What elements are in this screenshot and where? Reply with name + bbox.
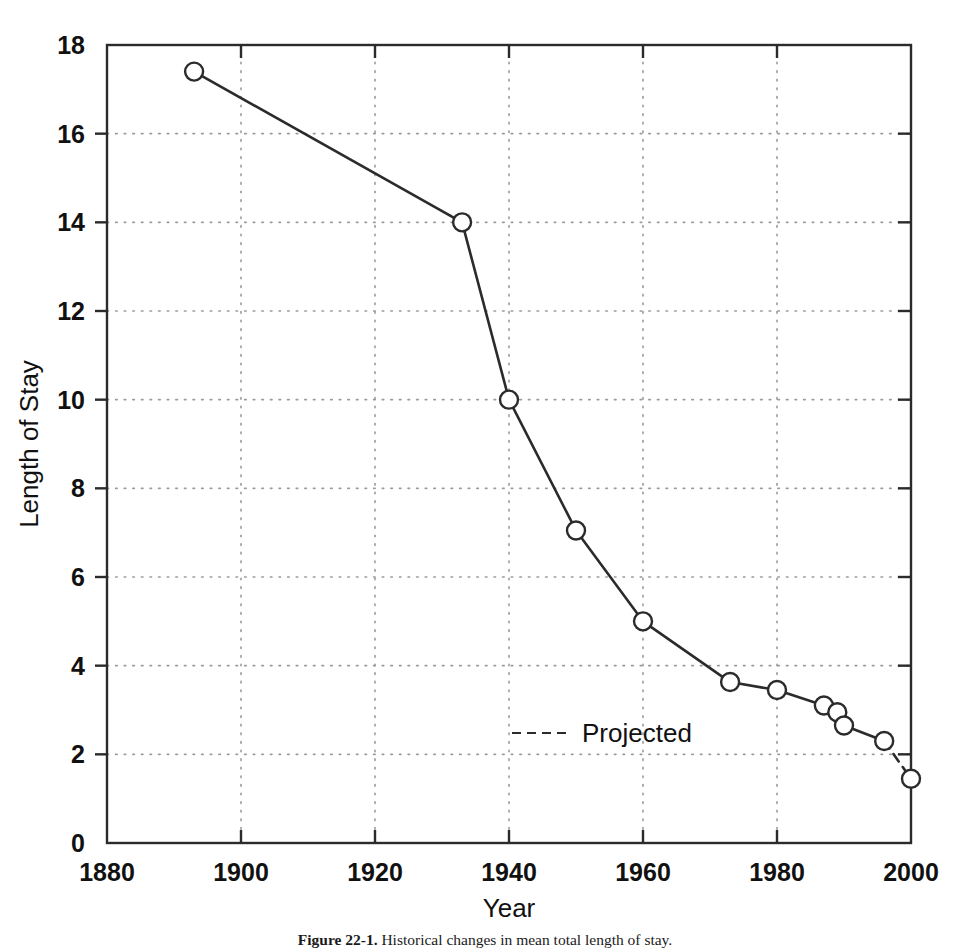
y-axis-tick-label: 18 [57,31,85,59]
y-axis-tick-label: 4 [71,652,85,680]
data-point-marker [453,213,471,231]
y-axis-tick-label: 12 [57,297,85,325]
x-axis-tick-label: 1960 [615,858,671,886]
y-axis-tick-label: 16 [57,120,85,148]
x-axis-tick-label: 2000 [883,858,939,886]
data-point-marker [768,681,786,699]
line-chart: 024681012141618 188019001920194019601980… [0,0,970,950]
y-axis-tick-label: 14 [57,208,85,236]
figure-container: 024681012141618 188019001920194019601980… [0,0,970,950]
data-point-marker [835,717,853,735]
x-axis-tick-label: 1920 [347,858,403,886]
data-point-marker [500,391,518,409]
figure-caption-label: Figure 22-1. [298,931,378,948]
y-axis-tick-label: 0 [71,829,85,857]
legend-label-projected: Projected [582,718,692,748]
data-point-marker [875,732,893,750]
figure-caption-text: Historical changes in mean total length … [381,931,672,948]
y-axis-tick-label: 6 [71,563,85,591]
figure-caption: Figure 22-1. Historical changes in mean … [0,930,970,950]
x-axis-title: Year [483,893,536,923]
y-axis-tick-label: 2 [71,740,85,768]
y-axis-tick-label: 10 [57,386,85,414]
data-point-marker [902,770,920,788]
y-axis-tick-labels: 024681012141618 [57,31,85,857]
data-point-marker [634,612,652,630]
x-axis-tick-label: 1940 [481,858,537,886]
x-axis-tick-label: 1880 [79,858,135,886]
y-axis-title: Length of Stay [14,360,44,528]
data-point-marker [185,63,203,81]
x-axis-tick-label: 1980 [749,858,805,886]
y-axis-tick-label: 8 [71,474,85,502]
data-point-marker [567,521,585,539]
x-axis-tick-labels: 1880190019201940196019802000 [79,858,939,886]
x-axis-tick-label: 1900 [213,858,269,886]
data-point-marker [721,673,739,691]
